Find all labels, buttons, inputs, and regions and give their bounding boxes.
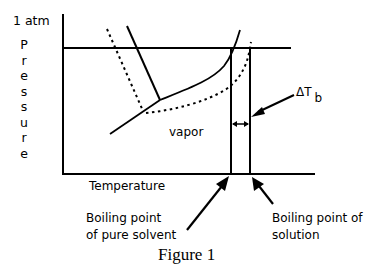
solvent-vaporization-curve [160, 30, 240, 100]
solution-vaporization-curve [146, 42, 251, 113]
solvent-sublimation-line [110, 100, 160, 134]
delta-t-text: ΔT [296, 85, 312, 99]
x-axis-label: Temperature [89, 179, 165, 193]
pure-solvent-line-1: Boiling point [86, 210, 176, 227]
solution-line-2: solution [272, 227, 363, 244]
pressure-letter: e [18, 68, 30, 84]
delta-tb-label: ΔTb [296, 85, 319, 99]
pressure-letter: r [18, 130, 30, 146]
solution-annotation: Boiling point of solution [272, 210, 363, 244]
delta-t-pointer [258, 95, 294, 112]
figure-caption: Figure 1 [158, 245, 215, 265]
pressure-letter: P [18, 37, 30, 53]
delta-t-subscript: b [315, 91, 323, 105]
pure-solvent-annotation: Boiling point of pure solvent [86, 210, 176, 244]
solvent-fusion-line [127, 26, 160, 100]
pressure-letter: r [18, 53, 30, 69]
delta-t-arrowhead-left [232, 121, 237, 127]
solution-fusion-line [107, 29, 143, 111]
solvent-bp-pointer-head [216, 176, 229, 191]
solution-line-1: Boiling point of [272, 210, 363, 227]
pure-solvent-line-2: of pure solvent [86, 227, 176, 244]
pressure-letter: s [18, 99, 30, 115]
pressure-axis-label: P r e s s u r e [18, 37, 30, 161]
solution-bp-pointer [259, 186, 273, 204]
pressure-letter: u [18, 115, 30, 131]
vapor-label: vapor [169, 125, 203, 139]
solvent-bp-pointer [187, 186, 222, 230]
pressure-letter: e [18, 146, 30, 162]
delta-t-arrowhead-right [244, 121, 249, 127]
one-atm-label: 1 atm [13, 14, 50, 28]
pressure-letter: s [18, 84, 30, 100]
delta-t-pointer-head [251, 107, 265, 117]
